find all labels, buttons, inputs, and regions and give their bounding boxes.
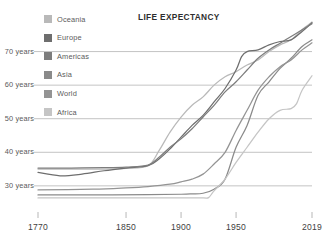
legend-swatch-icon-world: [44, 90, 52, 98]
legend-item-world[interactable]: World: [44, 84, 114, 103]
legend-swatch-icon-oceania: [44, 15, 52, 23]
legend-item-americas[interactable]: Americas: [44, 47, 114, 66]
legend-item-europe[interactable]: Europe: [44, 29, 114, 48]
y-axis-label-60-years: 60 years: [5, 81, 34, 88]
legend-swatch-icon-europe: [44, 34, 52, 42]
legend-swatch-icon-africa: [44, 108, 52, 116]
legend-label: Americas: [57, 53, 89, 60]
legend-label: Asia: [57, 71, 72, 78]
y-axis-label-50-years: 50 years: [5, 115, 34, 122]
y-axis-label-30-years: 30 years: [5, 182, 34, 189]
legend-swatch-icon-asia: [44, 71, 52, 79]
legend-swatch-icon-americas: [44, 52, 52, 60]
y-axis-label-40-years: 40 years: [5, 148, 34, 155]
y-axis-labels: 30 years40 years50 years60 years70 years: [0, 0, 34, 241]
legend-item-oceania[interactable]: Oceania: [44, 10, 114, 29]
y-axis-label-70-years: 70 years: [5, 48, 34, 55]
legend-label: World: [57, 90, 77, 97]
legend-label: Europe: [57, 34, 82, 41]
legend-label: Oceania: [57, 16, 86, 23]
legend-item-africa[interactable]: Africa: [44, 103, 114, 122]
chart-title: LIFE EXPECTANCY: [138, 12, 220, 22]
x-axis-ticks: [38, 212, 312, 218]
legend-label: Africa: [57, 109, 77, 116]
chart-legend: OceaniaEuropeAmericasAsiaWorldAfrica: [44, 10, 114, 122]
legend-item-asia[interactable]: Asia: [44, 66, 114, 85]
